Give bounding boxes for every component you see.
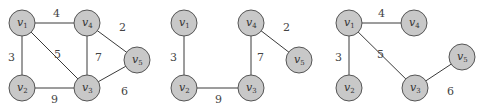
graph-full: 4357296v1v4v5v2v3 [8,7,150,106]
edge-weight-v2-v3: 9 [215,93,222,106]
edge-weight-v3-v5: 6 [447,85,454,98]
edge-weight-v4-v5: 2 [283,21,290,34]
node-v5: v5 [286,47,312,73]
node-v5: v5 [449,44,475,70]
edge-weight-v4-v3: 7 [95,51,102,64]
node-v3: v3 [74,75,100,101]
graph-c: 4356v1v4v5v2v3 [335,7,475,101]
edge-weight-v4-v3: 7 [257,51,264,64]
node-v1: v1 [171,10,197,36]
edge-weight-v2-v3: 9 [51,93,58,106]
node-v3: v3 [238,75,264,101]
node-v4: v4 [238,10,264,36]
node-v5: v5 [124,47,150,73]
node-v1: v1 [336,10,362,36]
node-v2: v2 [9,75,35,101]
edge-weight-v1-v2: 3 [335,51,342,64]
node-v3: v3 [402,75,428,101]
node-v4: v4 [74,10,100,36]
edge-weight-v1-v2: 3 [8,51,15,64]
edge-weight-v4-v5: 2 [119,21,126,34]
edge-weight-v1-v2: 3 [170,51,177,64]
edge-weight-v3-v5: 6 [121,85,128,98]
edge-weight-v1-v3: 5 [377,48,384,61]
edge-weight-v1-v3: 5 [54,48,61,61]
graph-diagram: 4357296v1v4v5v2v33972v1v4v5v2v34356v1v4v… [0,0,478,112]
node-v2: v2 [336,75,362,101]
node-v1: v1 [9,10,35,36]
edge-weight-v1-v4: 4 [378,7,385,20]
node-v4: v4 [401,10,427,36]
graph-b: 3972v1v4v5v2v3 [170,10,312,106]
edge-weight-v1-v4: 4 [53,7,60,20]
node-v2: v2 [171,75,197,101]
